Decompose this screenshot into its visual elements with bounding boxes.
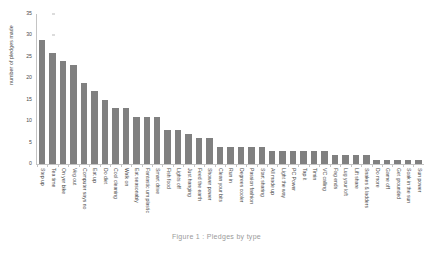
x-axis-tick-mark — [183, 164, 184, 167]
bar-slot — [204, 14, 214, 164]
x-axis-label-slot: Lug your loft — [340, 168, 350, 230]
bar — [363, 155, 369, 164]
x-axis-tick-slot — [298, 164, 308, 167]
x-axis-tick-slot — [330, 164, 340, 167]
x-axis-category-label: On yer bike — [61, 168, 66, 194]
y-axis-tick-label: 15 — [18, 97, 32, 102]
bar — [269, 151, 275, 164]
bar-slot — [142, 14, 152, 164]
bar-slot — [162, 14, 172, 164]
x-axis-label-slot: PC Power — [288, 168, 298, 230]
x-axis-tick-mark — [58, 164, 59, 167]
bar — [144, 117, 150, 164]
x-axis-label-slot: Sun power — [413, 168, 423, 230]
bar-slot — [277, 14, 287, 164]
x-axis-label-slot: Just hanging — [183, 168, 193, 230]
x-axis-tick-slot — [413, 164, 423, 167]
x-axis-tick-mark — [298, 164, 299, 167]
x-axis-label-slot: Lift share — [351, 168, 361, 230]
x-axis-tick-slot — [267, 164, 277, 167]
bar — [290, 151, 296, 164]
x-axis-label-slot: Game off — [382, 168, 392, 230]
x-axis-category-label: Snakes & ladders — [364, 168, 369, 208]
bar-slot — [246, 14, 256, 164]
x-axis-tick-mark — [319, 164, 320, 167]
x-axis-category-label: Do more — [374, 168, 379, 188]
x-axis-label-slot: Timin — [309, 168, 319, 230]
x-axis-tick-mark — [392, 164, 393, 167]
x-axis-category-label: Eat up — [92, 168, 97, 183]
bar — [39, 40, 45, 164]
x-axis-tick-mark — [194, 164, 195, 167]
x-axis-tick-mark — [204, 164, 205, 167]
x-axis-tick-slot — [392, 164, 402, 167]
x-axis-label-slot: Veg out — [68, 168, 78, 230]
x-axis-label-slot: Shower power — [204, 168, 214, 230]
x-axis-label-slot: Computer says no — [79, 168, 89, 230]
x-axis-label-slot: Tap it — [298, 168, 308, 230]
bar-slot — [361, 14, 371, 164]
bar — [311, 151, 317, 164]
bar — [196, 138, 202, 164]
bar-slot — [79, 14, 89, 164]
bar-slot — [372, 14, 382, 164]
x-axis-tick-slot — [340, 164, 350, 167]
x-axis-tick-mark — [246, 164, 247, 167]
x-axis-label-slot: Do diet — [100, 168, 110, 230]
x-axis-category-label: Get grounded — [395, 168, 400, 199]
x-axis-tick-slot — [277, 164, 287, 167]
x-axis-tick-slot — [194, 164, 204, 167]
x-axis-tick-slot — [382, 164, 392, 167]
y-axis-tick-label: 5 — [18, 140, 32, 145]
x-axis-tick-slot — [162, 164, 172, 167]
x-axis-category-label: Shower power — [207, 168, 212, 201]
x-axis-label-slot: Feed the earth — [194, 168, 204, 230]
x-axis-category-label: Step up — [40, 168, 45, 186]
x-axis-category-label: PC Power — [291, 168, 296, 191]
bar — [154, 117, 160, 164]
x-axis-label-slot: Get grounded — [392, 168, 402, 230]
x-axis-tick-mark — [89, 164, 90, 167]
x-axis-category-label: Soak in the sun — [406, 168, 411, 203]
bar-slot — [340, 14, 350, 164]
x-axis-tick-slot — [58, 164, 68, 167]
x-axis-category-label: Cool cleaning — [113, 168, 118, 199]
bar-slot — [267, 14, 277, 164]
x-axis-tick-slot — [403, 164, 413, 167]
x-axis-label-slot: Start sharing — [257, 168, 267, 230]
x-axis-category-label: Computer says no — [81, 168, 86, 209]
x-axis-tick-slot — [361, 164, 371, 167]
x-axis-category-label: Eat seasonably — [134, 168, 139, 203]
x-axis-category-label: Clean your bits — [217, 168, 222, 202]
bar-slot — [319, 14, 329, 164]
x-axis-label-slot: Clean your bits — [215, 168, 225, 230]
x-axis-tick-mark — [215, 164, 216, 167]
bar — [300, 151, 306, 164]
bar — [279, 151, 285, 164]
x-axis-tick-mark — [100, 164, 101, 167]
x-axis-category-label: Lights off — [176, 168, 181, 189]
x-axis-tick-slot — [100, 164, 110, 167]
x-axis-tick-slot — [183, 164, 193, 167]
x-axis-category-label: Degrees cooler — [238, 168, 243, 203]
x-axis-tick-mark — [162, 164, 163, 167]
x-axis-tick-slot — [236, 164, 246, 167]
x-axis-tick-slot — [68, 164, 78, 167]
bar-slot — [225, 14, 235, 164]
x-axis-tick-mark — [403, 164, 404, 167]
x-axis-category-label: Game off — [385, 168, 390, 189]
bar-slot — [403, 14, 413, 164]
bar — [175, 130, 181, 164]
bar — [133, 117, 139, 164]
x-axis-category-label: Veg out — [71, 168, 76, 185]
x-axis-tick-mark — [267, 164, 268, 167]
x-axis-category-label: Fag ends — [332, 168, 337, 189]
y-axis-tick-label: 10 — [18, 119, 32, 124]
x-axis-tick-mark — [330, 164, 331, 167]
bar-slot — [288, 14, 298, 164]
x-axis-label-slot: Cool cleaning — [110, 168, 120, 230]
x-axis-label-slot: Fag ends — [330, 168, 340, 230]
x-axis-label-slot: All made up — [267, 168, 277, 230]
bar-slot — [215, 14, 225, 164]
bar — [49, 53, 55, 164]
